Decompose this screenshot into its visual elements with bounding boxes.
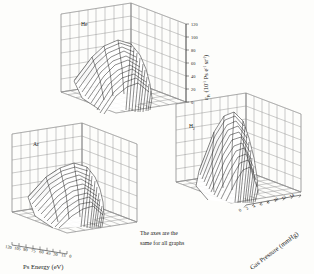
- z-tick-2: 80: [191, 48, 196, 53]
- x-tick-0: 120: [5, 244, 13, 250]
- y-tick-0: 0: [238, 207, 243, 213]
- y-tick-2: 4: [252, 203, 257, 209]
- z-axis-label: εPs (10-3 Ps e-1 sr-1): [202, 55, 211, 100]
- x-tick-6: 30: [53, 251, 59, 257]
- axes-note-line2: same for all graphs: [140, 240, 185, 246]
- y-axis-label: Gas Pressure (mmHg): [248, 230, 300, 272]
- y-tick-4: 8: [266, 199, 271, 205]
- x-tick-3: 75: [31, 248, 37, 254]
- x-tick-5: 45: [46, 250, 52, 256]
- z-tick-0: 120: [191, 22, 198, 27]
- z-axis-ticks: [186, 24, 189, 102]
- y-tick-6: 12: [281, 194, 288, 201]
- x-tick-7: 15: [61, 253, 67, 259]
- x-tick-8: 0: [69, 254, 73, 259]
- surface-plot-figure: He: [0, 0, 314, 274]
- z-tick-3: 60: [191, 61, 196, 66]
- x-tick-4: 60: [39, 249, 45, 255]
- axes-note: The axes are the same for all graphs: [140, 230, 185, 246]
- z-tick-1: 100: [191, 35, 198, 40]
- x-axis-label: Ps Energy (eV): [23, 263, 64, 271]
- x-axis: 120 105 90 75 60 45 30 15 0 Ps Energy (e…: [5, 242, 73, 271]
- x-tick-2: 90: [23, 247, 29, 253]
- panel-label-ar: Ar: [33, 141, 39, 147]
- y-tick-1: 2: [245, 205, 250, 210]
- figure-root: He: [0, 0, 314, 274]
- x-tick-1: 105: [14, 245, 22, 251]
- y-axis: 0 2 4 6 8 10 12 14 Gas Pressure (mmHg): [238, 192, 301, 272]
- z-axis: 120 100 80 60 40 20 0 εPs (10-3 Ps e-1 s…: [186, 22, 211, 105]
- panel-he: He: [61, 3, 186, 114]
- panel-ar: Ar: [12, 123, 137, 233]
- z-tick-5: 20: [191, 87, 196, 92]
- axes-note-line1: The axes are the: [140, 230, 178, 236]
- panel-h2: H2: [176, 93, 301, 203]
- z-tick-4: 40: [191, 74, 196, 79]
- panel-label-he: He: [81, 21, 88, 27]
